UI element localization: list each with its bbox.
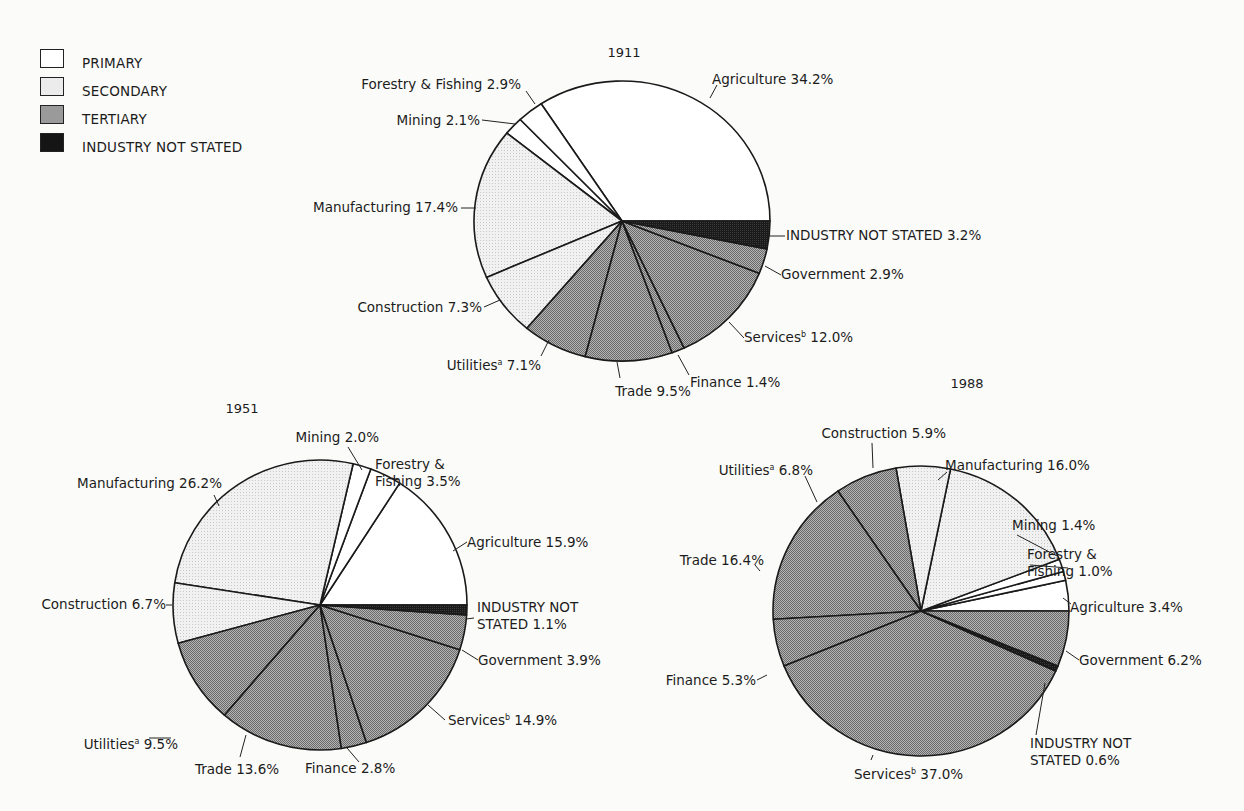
slice-label: Government 3.9%: [478, 652, 601, 668]
slice-label: Utilitiesa 6.8%: [719, 462, 813, 478]
leader-line: [617, 362, 620, 378]
slice-label: Agriculture 3.4%: [1070, 599, 1183, 615]
slice-label: Construction 7.3%: [357, 299, 482, 315]
leader-line: [1066, 651, 1079, 660]
slice-label: Utilitiesa 9.5%: [84, 736, 178, 752]
slice-label: Mining 2.0%: [296, 429, 380, 445]
leader-line: [678, 355, 689, 375]
leader-line: [871, 755, 873, 760]
slice-label: Construction 5.9%: [821, 425, 946, 441]
pie-chart-1988: 1988 Agriculture 3.4%Forestry &Fishing 1…: [666, 376, 1202, 782]
chart-title: 1988: [950, 376, 983, 391]
slice-label: INDUSTRY NOTSTATED 0.6%: [1030, 735, 1132, 768]
slice-label: Servicesb 12.0%: [744, 329, 853, 345]
leader-line: [428, 705, 445, 720]
leader-line: [466, 618, 474, 619]
slice-label: Forestry &Fishing 3.5%: [375, 456, 461, 489]
slice-label: Mining 1.4%: [1012, 517, 1096, 533]
pie-charts: 1911 Agriculture 34.2%Forestry & Fishing…: [0, 0, 1244, 811]
slice-label: INDUSTRY NOT STATED 3.2%: [786, 227, 981, 243]
slice-label: Forestry & Fishing 2.9%: [361, 76, 521, 92]
slice-label: Agriculture 15.9%: [467, 534, 589, 550]
leader-line: [462, 650, 478, 660]
slice-label: Manufacturing 26.2%: [77, 475, 222, 491]
slice-label: Finance 5.3%: [666, 672, 756, 688]
slice-label: Trade 9.5%: [614, 383, 691, 399]
slice-label: Trade 13.6%: [194, 761, 279, 777]
leader-line: [872, 443, 873, 468]
slice-label: Government 6.2%: [1079, 652, 1202, 668]
leader-line: [484, 300, 500, 307]
slice-label: Construction 6.7%: [41, 596, 166, 612]
slice-label: Utilitiesa 7.1%: [447, 357, 541, 373]
slice-label: Manufacturing 16.0%: [945, 457, 1090, 473]
slice-label: INDUSTRY NOTSTATED 1.1%: [477, 599, 579, 632]
slice-label: Finance 2.8%: [305, 760, 395, 776]
slice-label: Servicesb 14.9%: [448, 712, 557, 728]
slice-label: Forestry &Fishing 1.0%: [1027, 546, 1113, 579]
leader-line: [240, 735, 246, 757]
leader-line: [765, 266, 781, 275]
leader-line: [482, 120, 515, 124]
leader-line: [757, 675, 767, 680]
pie-chart-1911: 1911 Agriculture 34.2%Forestry & Fishing…: [313, 45, 981, 399]
slice-label: Trade 16.4%: [679, 552, 764, 568]
chart-title: 1911: [607, 45, 640, 60]
chart-title: 1951: [225, 401, 258, 416]
slice-label: Government 2.9%: [781, 266, 904, 282]
pie-chart-1951: 1951 Agriculture 15.9%Forestry &Fishing …: [41, 401, 601, 777]
slice-label: Servicesb 37.0%: [854, 766, 963, 782]
leader-line: [805, 476, 817, 502]
slice-label: Agriculture 34.2%: [712, 71, 834, 87]
slice-label: Finance 1.4%: [690, 374, 780, 390]
leader-line: [541, 340, 549, 356]
leader-line: [729, 322, 744, 338]
leader-line: [526, 91, 535, 104]
slice-label: Mining 2.1%: [397, 112, 481, 128]
slice-label: Manufacturing 17.4%: [313, 199, 458, 215]
